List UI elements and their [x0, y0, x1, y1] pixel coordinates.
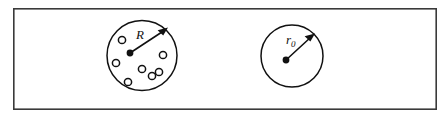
left-center-dot	[127, 50, 134, 57]
right-radius-label-subscript: 0	[291, 39, 296, 49]
particle	[112, 59, 119, 66]
left-diagram-group: R	[107, 21, 177, 91]
particle	[148, 72, 155, 79]
physics-diagram: R r0	[0, 0, 448, 118]
right-diagram-group: r0	[261, 25, 323, 87]
left-radius-label: R	[135, 27, 144, 42]
particle	[155, 68, 162, 75]
figure-container: R r0	[0, 0, 448, 118]
particle	[124, 78, 131, 85]
particle	[159, 51, 166, 58]
left-radius-label-text: R	[135, 27, 144, 42]
particle	[118, 36, 125, 43]
outer-frame	[14, 9, 436, 109]
right-center-dot	[283, 57, 290, 64]
particle	[138, 65, 145, 72]
